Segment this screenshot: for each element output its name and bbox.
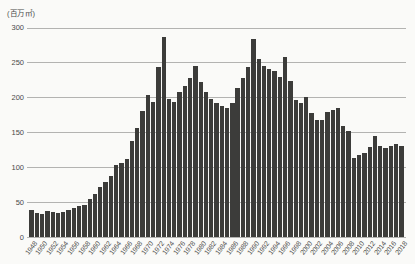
bar-1972 xyxy=(156,67,160,237)
bar-2011 xyxy=(362,153,366,237)
bar-2002 xyxy=(315,120,319,237)
bar-1988 xyxy=(241,78,245,237)
gridline-250 xyxy=(27,62,406,63)
bar-1975 xyxy=(172,102,176,237)
bar-1955 xyxy=(66,210,70,237)
bar-2013 xyxy=(373,136,377,237)
bar-2018 xyxy=(399,146,403,237)
bar-1959 xyxy=(88,199,92,237)
bar-1963 xyxy=(109,176,113,237)
bar-2001 xyxy=(309,113,313,237)
bar-1991 xyxy=(257,59,261,237)
bar-1997 xyxy=(288,81,292,237)
bar-1951 xyxy=(45,211,49,237)
bar-1950 xyxy=(40,214,44,237)
y-tick-label-50: 50 xyxy=(0,198,24,207)
bar-1982 xyxy=(209,99,213,237)
bar-1973 xyxy=(162,37,166,237)
bar-1954 xyxy=(61,212,65,237)
bar-1976 xyxy=(177,92,181,237)
bar-1957 xyxy=(77,206,81,237)
bar-1953 xyxy=(56,213,60,237)
y-tick-label-0: 0 xyxy=(0,233,24,242)
bar-1989 xyxy=(246,67,250,237)
bar-1960 xyxy=(93,194,97,237)
bar-1965 xyxy=(119,163,123,237)
bar-1970 xyxy=(146,95,150,237)
bar-1983 xyxy=(214,103,218,237)
bar-2009 xyxy=(352,158,356,237)
bar-1974 xyxy=(167,99,171,237)
bar-2012 xyxy=(368,147,372,237)
bar-chart: (百万㎡) 0501001502002503001948195019521954… xyxy=(0,0,415,264)
bar-1987 xyxy=(235,88,239,237)
bar-1990 xyxy=(251,39,255,237)
bar-1979 xyxy=(193,66,197,237)
bar-2017 xyxy=(394,144,398,237)
gridline-200 xyxy=(27,97,406,98)
bar-1952 xyxy=(51,212,55,237)
bar-1985 xyxy=(225,108,229,237)
bar-1986 xyxy=(230,103,234,237)
bar-2006 xyxy=(336,108,340,237)
bar-1962 xyxy=(103,182,107,237)
bar-1995 xyxy=(278,77,282,237)
bar-1948 xyxy=(29,210,33,237)
bar-1964 xyxy=(114,165,118,237)
bar-2015 xyxy=(383,148,387,237)
bar-1961 xyxy=(98,187,102,237)
bar-1992 xyxy=(262,66,266,237)
y-tick-label-250: 250 xyxy=(0,58,24,67)
bar-2003 xyxy=(320,120,324,237)
bar-2004 xyxy=(325,112,329,237)
bar-1969 xyxy=(140,111,144,237)
bar-2007 xyxy=(341,126,345,237)
y-axis-unit-label: (百万㎡) xyxy=(7,7,36,18)
bar-2000 xyxy=(304,97,308,237)
bar-1971 xyxy=(151,102,155,237)
gridline-300 xyxy=(27,28,406,29)
bar-2014 xyxy=(378,146,382,237)
bar-1977 xyxy=(183,86,187,237)
y-tick-label-100: 100 xyxy=(0,163,24,172)
gridline-0 xyxy=(27,237,406,238)
bar-1999 xyxy=(299,103,303,237)
bar-1993 xyxy=(267,69,271,237)
bar-1998 xyxy=(294,100,298,237)
bar-1958 xyxy=(82,205,86,237)
y-tick-label-150: 150 xyxy=(0,128,24,137)
bar-2005 xyxy=(331,110,335,237)
bar-1994 xyxy=(272,71,276,237)
bar-1956 xyxy=(72,208,76,237)
bar-1996 xyxy=(283,57,287,237)
bar-2016 xyxy=(389,146,393,237)
bar-1981 xyxy=(204,92,208,237)
bar-1966 xyxy=(125,159,129,237)
bar-1978 xyxy=(188,78,192,237)
bar-1980 xyxy=(199,82,203,237)
y-tick-label-300: 300 xyxy=(0,23,24,32)
bar-1984 xyxy=(220,106,224,237)
bar-2008 xyxy=(346,131,350,237)
y-tick-label-200: 200 xyxy=(0,93,24,102)
bar-1968 xyxy=(135,128,139,237)
bar-1967 xyxy=(130,141,134,237)
bar-1949 xyxy=(35,213,39,237)
bar-2010 xyxy=(357,155,361,237)
